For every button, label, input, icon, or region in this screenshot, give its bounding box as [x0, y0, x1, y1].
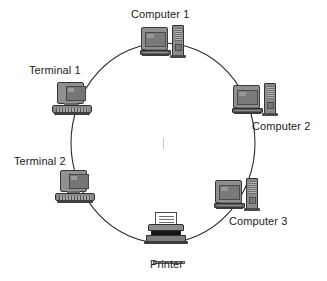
tower-vent	[267, 102, 274, 109]
label-computer-1: Computer 1	[131, 8, 189, 20]
computer-tower-icon	[233, 83, 279, 119]
monitor-foot	[234, 112, 261, 114]
drive-bays	[175, 28, 182, 41]
printer-icon	[144, 212, 188, 246]
tower-case	[264, 83, 276, 114]
tower-case	[172, 25, 184, 56]
node-computer-3[interactable]	[215, 178, 261, 214]
keyboard-base	[57, 200, 93, 203]
node-printer[interactable]	[144, 212, 188, 246]
computer-tower-icon	[215, 178, 261, 214]
label-computer-3: Computer 3	[229, 215, 287, 227]
tower-base	[170, 55, 186, 58]
label-terminal-2: Terminal 2	[14, 155, 66, 167]
keyboard-base	[54, 112, 90, 115]
monitor-screen	[237, 90, 258, 105]
terminal-icon	[55, 170, 95, 204]
terminal-screen	[69, 174, 89, 189]
terminal-monitor-body	[57, 82, 84, 104]
terminal-icon	[52, 82, 92, 116]
label-printer: Printer	[150, 258, 183, 270]
node-computer-2[interactable]	[233, 83, 279, 119]
terminal-screen	[66, 86, 86, 101]
monitor-screen	[145, 32, 166, 47]
tower-vent	[249, 197, 256, 204]
tower-vent	[175, 44, 182, 51]
monitor-foot	[216, 207, 243, 209]
monitor-body	[233, 85, 260, 108]
paper-text-lines	[159, 216, 174, 223]
tower-case	[246, 178, 258, 209]
monitor-screen	[219, 185, 240, 200]
printer-base	[144, 241, 188, 244]
label-terminal-1: Terminal 1	[29, 64, 81, 76]
node-computer-1[interactable]	[141, 25, 187, 61]
tower-base	[262, 113, 278, 116]
label-computer-2: Computer 2	[252, 120, 310, 132]
drive-bays	[267, 86, 274, 99]
monitor-foot	[142, 54, 169, 56]
node-terminal-1[interactable]	[52, 82, 92, 116]
node-terminal-2[interactable]	[55, 170, 95, 204]
terminal-monitor-body	[60, 170, 87, 192]
tower-base	[244, 208, 260, 211]
computer-tower-icon	[141, 25, 187, 61]
ring-topology-diagram: Computer 1 Computer 2	[0, 0, 327, 281]
drive-bays	[249, 181, 256, 194]
center-artifact	[163, 138, 164, 149]
monitor-body	[141, 27, 168, 50]
monitor-body	[215, 180, 242, 203]
